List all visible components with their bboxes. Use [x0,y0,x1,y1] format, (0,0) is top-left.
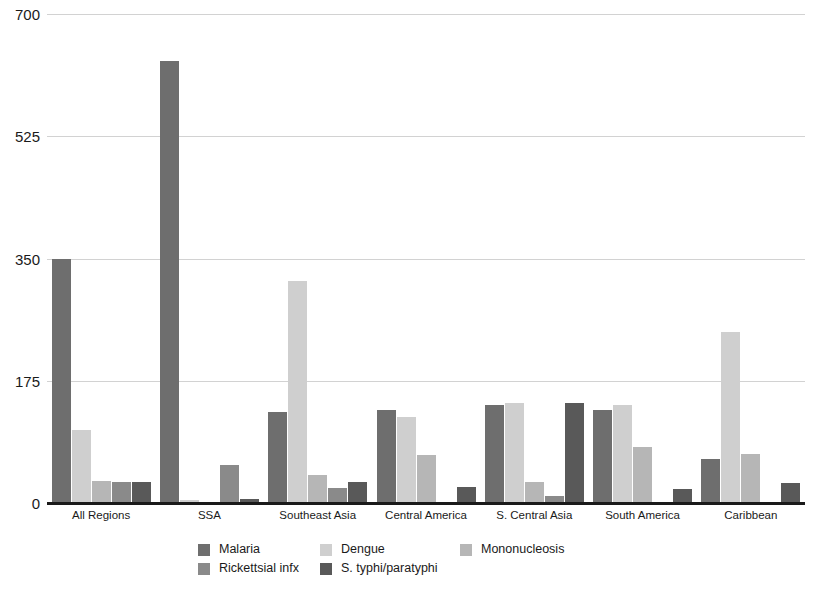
bar [328,488,347,503]
x-tick-label: S. Central Asia [480,509,588,522]
bar [781,483,800,503]
legend-item: Mononucleosis [460,543,600,556]
legend-label: Mononucleosis [481,543,564,556]
legend-swatch-icon [320,563,332,575]
x-tick-label: Southeast Asia [264,509,372,522]
legend-swatch-icon [198,563,210,575]
bar [220,465,239,503]
bar [741,454,760,503]
bar [485,405,504,503]
bar [673,489,692,503]
bar [701,459,720,503]
y-tick-label-0: 0 [0,496,40,511]
bar [457,487,476,503]
bar [565,403,584,503]
bar [268,412,287,503]
bar [308,475,327,503]
x-tick-label: All Regions [47,509,155,522]
legend-item: Rickettsial infx [198,562,320,575]
y-tick-label-700: 700 [0,7,40,22]
x-tick-label: SSA [155,509,263,522]
bar [397,417,416,503]
legend-row: MalariaDengueMononucleosis [198,540,638,559]
bar [505,403,524,503]
bar [288,281,307,503]
bar-group [160,14,259,503]
x-tick-label: Central America [372,509,480,522]
y-tick-label-525: 525 [0,129,40,144]
bar-chart: 0175350525700 All RegionsSSASoutheast As… [0,0,818,590]
bar-group [377,14,476,503]
legend-item: Dengue [320,543,460,556]
bar-group [701,14,800,503]
legend-swatch-icon [198,544,210,556]
legend-label: Rickettsial infx [219,562,299,575]
bar [633,447,652,503]
bar-group [52,14,151,503]
legend-swatch-icon [460,544,472,556]
bar [721,332,740,503]
legend-swatch-icon [320,544,332,556]
bar [348,482,367,503]
bar [92,481,111,503]
bar [613,405,632,503]
x-axis-baseline [47,502,805,505]
bar [593,410,612,503]
bar [52,259,71,504]
y-tick-label-350: 350 [0,252,40,267]
bar-group [485,14,584,503]
bar [417,455,436,503]
legend-label: S. typhi/paratyphi [341,562,438,575]
bar [377,410,396,503]
bar [112,482,131,503]
chart-legend: MalariaDengueMononucleosisRickettsial in… [198,540,638,578]
x-tick-label: Caribbean [697,509,805,522]
bar-group [593,14,692,503]
bar [132,482,151,503]
bar [72,430,91,503]
x-tick-label: South America [588,509,696,522]
plot-bars [47,14,805,503]
bar [525,482,544,503]
legend-item: Malaria [198,543,320,556]
legend-label: Malaria [219,543,260,556]
legend-row: Rickettsial infxS. typhi/paratyphi [198,559,638,578]
y-axis: 0175350525700 [0,0,40,590]
y-tick-label-175: 175 [0,374,40,389]
legend-item: S. typhi/paratyphi [320,562,460,575]
bar-group [268,14,367,503]
legend-label: Dengue [341,543,385,556]
bar [160,61,179,503]
